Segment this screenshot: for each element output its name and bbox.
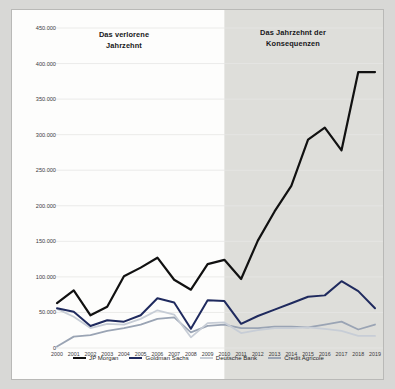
annotation-consequences-decade: Das Jahrzehnt der Konsequenzen <box>217 28 369 49</box>
legend-swatch-icon <box>268 357 281 359</box>
legend-label: Credit Agricole <box>284 355 324 361</box>
y-tick-label: 150.000 <box>36 238 56 244</box>
y-tick-label: 450.000 <box>36 25 56 31</box>
legend-item-goldman-sachs[interactable]: Goldman Sachs <box>129 355 188 361</box>
chart-card: 050.000100.000150.000200.000250.000300.0… <box>11 9 384 380</box>
legend-item-credit-agricole[interactable]: Credit Agricole <box>268 355 324 361</box>
legend-swatch-icon <box>129 357 142 359</box>
legend-swatch-icon <box>73 357 86 359</box>
y-tick-label: 250.000 <box>36 167 56 173</box>
y-tick-label: 200.000 <box>36 203 56 209</box>
y-tick-label: 0 <box>53 345 56 351</box>
legend-label: Deutsche Bank <box>216 355 257 361</box>
y-axis-tick-labels: 050.000100.000150.000200.000250.000300.0… <box>22 10 56 380</box>
chart-plot-svg <box>12 10 384 380</box>
y-tick-label: 100.000 <box>36 274 56 280</box>
legend-label: JP Morgan <box>89 355 118 361</box>
legend-item-jp-morgan[interactable]: JP Morgan <box>73 355 118 361</box>
y-tick-label: 350.000 <box>36 96 56 102</box>
shaded-band-consequences-decade <box>224 10 384 380</box>
legend-item-deutsche-bank[interactable]: Deutsche Bank <box>200 355 257 361</box>
y-tick-label: 300.000 <box>36 132 56 138</box>
chart-figure: 050.000100.000150.000200.000250.000300.0… <box>0 0 395 389</box>
annotation-lost-decade: Das verlorene Jahrzehnt <box>64 30 184 51</box>
y-tick-label: 400.000 <box>36 61 56 67</box>
chart-legend: JP MorganGoldman SachsDeutsche BankCredi… <box>12 355 384 361</box>
y-tick-label: 50.000 <box>39 309 56 315</box>
plot-area <box>12 10 384 380</box>
legend-label: Goldman Sachs <box>145 355 188 361</box>
legend-swatch-icon <box>200 357 213 359</box>
